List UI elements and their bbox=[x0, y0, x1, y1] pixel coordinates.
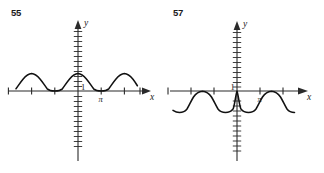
y-axis-label: y bbox=[242, 19, 248, 29]
graph-canvas-57: y x 1 π bbox=[162, 0, 324, 173]
pi-tick-label: π bbox=[98, 94, 103, 104]
x-axis-label: x bbox=[149, 92, 155, 102]
figure-57: 57 bbox=[162, 0, 324, 173]
y-axis-arrow-icon bbox=[75, 20, 82, 29]
y-axis-label: y bbox=[83, 18, 89, 28]
x-axis-label: x bbox=[306, 92, 312, 102]
figure-55: 55 bbox=[0, 0, 162, 173]
pi-tick-label: π bbox=[257, 94, 262, 104]
y-axis-arrow-icon bbox=[234, 21, 241, 30]
graph-canvas-55: y x 1 π bbox=[0, 0, 162, 173]
unit-one-label: 1 bbox=[81, 82, 85, 92]
unit-one-label: 1 bbox=[231, 82, 235, 92]
